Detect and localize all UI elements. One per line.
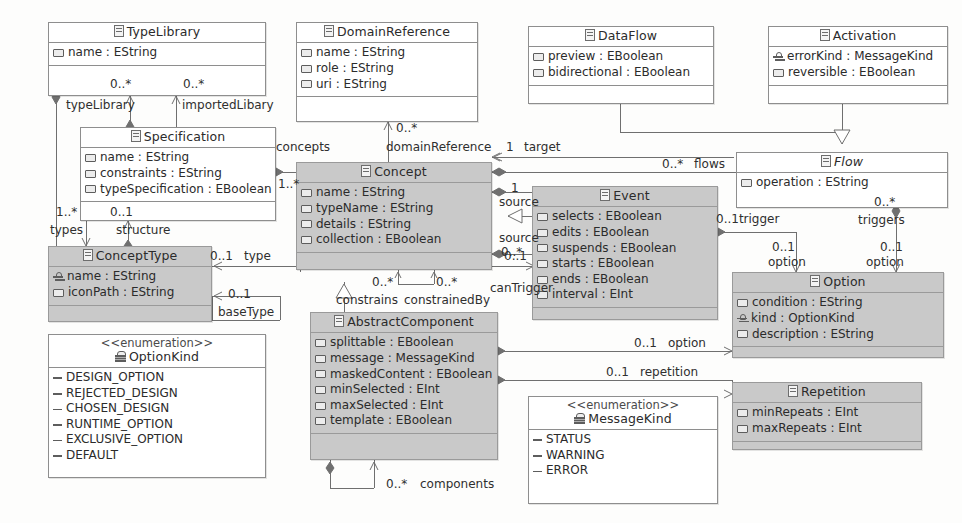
literal-icon [53, 436, 62, 445]
attribute-row: preview : EBoolean [533, 49, 710, 65]
edge-baseType-h2 [212, 320, 280, 321]
edge-label-type-mult: 0..1 [210, 250, 233, 263]
class-box-activation[interactable]: Activation errorKind : MessageKind rever… [768, 26, 948, 104]
edge-label-importedLibary: importedLibary [182, 99, 274, 112]
edge-flows [492, 172, 736, 173]
edge-constrains-v2 [434, 270, 435, 284]
attribute-row: operation : EString [741, 175, 944, 191]
class-name: Option [823, 274, 865, 289]
edge-baseType-left [212, 296, 213, 320]
class-attributes: name : EString [49, 43, 265, 63]
class-icon [585, 29, 595, 41]
class-header: ConceptType [49, 247, 211, 267]
literal-icon [533, 435, 542, 444]
class-operations-compartment [49, 305, 211, 315]
class-header: DomainReference [297, 23, 477, 43]
class-box-concepttype[interactable]: ConceptType name : EString iconPath : ES… [48, 246, 212, 322]
enumeration-header: <<enumeration>> MessageKind [529, 397, 717, 430]
enumeration-icon [574, 413, 585, 424]
edge-label-canTrigger: canTrigger [490, 282, 553, 295]
edge-label-option2: option [866, 256, 904, 269]
attribute-icon [737, 425, 748, 433]
class-name: Flow [834, 154, 863, 169]
class-box-option[interactable]: Option condition : EString kind : Option… [732, 272, 944, 358]
attribute-label: iconPath : EString [68, 285, 174, 301]
attribute-row: minSelected : EInt [315, 382, 494, 398]
literal-row: DESIGN_OPTION [53, 370, 262, 386]
class-box-concept[interactable]: Concept name : EString typeName : EStrin… [296, 162, 492, 270]
class-box-event[interactable]: Event selects : EBoolean edits : EBoolea… [532, 186, 718, 320]
class-header: Repetition [733, 383, 921, 403]
class-attributes: condition : EString kind : OptionKind de… [733, 293, 943, 344]
edge-label-types-mult: 1..* [56, 206, 77, 219]
edge-label-structure-mult: 0..1 [110, 206, 133, 219]
enumeration-name: MessageKind [588, 411, 671, 426]
literal-icon [53, 451, 62, 460]
edge-label-triggers-mult: 0..* [874, 196, 895, 209]
edge-components-v1 [330, 460, 331, 488]
edge-label-repetition-mult: 0..1 [606, 366, 629, 379]
class-icon [821, 155, 831, 167]
edge-label-structure: structure [116, 224, 170, 237]
edge-ac-repetition [498, 380, 732, 381]
attribute-icon [533, 53, 544, 61]
attribute-icon [737, 409, 748, 417]
attribute-row: name : EString [301, 185, 488, 201]
class-box-domainreference[interactable]: DomainReference name : EString role : ES… [296, 22, 478, 122]
edge-type [212, 266, 300, 267]
literal-label: EXCLUSIVE_OPTION [66, 432, 183, 448]
attribute-label: message : MessageKind [330, 351, 475, 367]
attribute-label: name : EString [100, 150, 189, 166]
class-box-flow[interactable]: Flow operation : EString [736, 152, 948, 208]
edge-label-target-mult: 1 [506, 141, 514, 154]
enumeration-box-optionkind[interactable]: <<enumeration>> OptionKind DESIGN_OPTION… [48, 334, 266, 478]
edge-label-domainReference: domainReference [386, 141, 491, 154]
edge-label-triggers: triggers [858, 214, 905, 227]
class-operations-compartment [297, 252, 491, 262]
enumeration-icon [115, 351, 126, 362]
class-box-abstractcomponent[interactable]: AbstractComponent splittable : EBoolean … [310, 312, 498, 460]
class-operations-compartment [733, 441, 921, 451]
class-attributes: name : EString constraints : EString typ… [81, 148, 275, 199]
edge-gen-to-flow [842, 132, 843, 144]
literal-label: WARNING [546, 448, 605, 464]
class-icon [114, 25, 124, 37]
edge-label-source2: source [499, 232, 539, 245]
literal-row: EXCLUSIVE_OPTION [53, 432, 262, 448]
attribute-row: typeSpecification : EBoolean [85, 182, 272, 198]
attribute-icon [301, 236, 312, 244]
literal-label: DESIGN_OPTION [66, 370, 164, 386]
attribute-icon [537, 244, 548, 252]
attribute-row: typeName : EString [301, 201, 488, 217]
class-box-dataflow[interactable]: DataFlow preview : EBoolean bidirectiona… [528, 26, 714, 104]
class-box-repetition[interactable]: Repetition minRepeats : EInt maxRepeats … [732, 382, 922, 450]
literal-icon [53, 389, 62, 398]
class-header: TypeLibrary [49, 23, 265, 43]
key-attribute-icon [53, 272, 63, 282]
class-operations-compartment [737, 193, 947, 200]
attribute-icon [53, 49, 64, 57]
class-icon [810, 275, 820, 287]
edge-components-h [330, 488, 374, 489]
attribute-label: errorKind : MessageKind [787, 49, 933, 65]
attribute-label: edits : EBoolean [552, 225, 649, 241]
attribute-label: minSelected : EInt [330, 382, 440, 398]
edge-label-option1: option [768, 256, 806, 269]
edge-label-components: components [420, 478, 494, 491]
literal-icon [533, 451, 542, 460]
class-name: AbstractComponent [347, 314, 474, 329]
attribute-row: interval : EInt [537, 287, 714, 303]
edge-constrains-v1 [398, 270, 399, 284]
key-attribute-icon [737, 314, 747, 324]
class-attributes: operation : EString [737, 173, 947, 193]
attribute-icon [301, 205, 312, 213]
class-operations-compartment [733, 346, 943, 356]
enumeration-box-messagekind[interactable]: <<enumeration>> MessageKind STATUS WARNI… [528, 396, 718, 504]
class-icon [820, 29, 830, 41]
class-box-typelibrary[interactable]: TypeLibrary name : EString [48, 22, 266, 96]
edge-ac-option [498, 351, 732, 352]
attribute-label: condition : EString [752, 295, 863, 311]
attribute-row: splittable : EBoolean [315, 335, 494, 351]
literal-label: CHOSEN_DESIGN [66, 401, 169, 417]
attribute-row: maskedContent : EBoolean [315, 367, 494, 383]
